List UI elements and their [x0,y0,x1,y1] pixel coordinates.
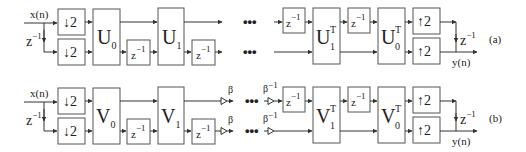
panel-a: x(n) z−1 ↓2 ↓2 U0 z−1 [24,8,502,69]
analysis-block-u0: U0 [93,9,120,65]
delay-block: z−1 [348,87,370,112]
panel-label-b: (b) [489,112,502,125]
svg-text:1: 1 [330,120,335,131]
output-label: y(n) [452,56,471,69]
delay-block: z−1 [127,40,150,65]
delay-label: z−1 [460,109,476,127]
svg-text:0: 0 [395,41,400,52]
svg-text:β: β [228,84,233,95]
synthesis-block-u0t: U T 0 [378,8,405,64]
svg-text:1: 1 [330,41,335,52]
upsampler-block: ↑2 [413,117,440,143]
delay-block: z−1 [192,40,215,65]
svg-text:↑2: ↑2 [417,44,431,59]
delay-block: z−1 [283,87,305,112]
svg-text:T: T [395,103,401,114]
synthesis-block-v1t: V T 1 [313,87,340,143]
svg-text:V: V [316,105,331,127]
output-label: y(n) [452,135,471,148]
svg-text:T: T [330,24,336,35]
delay-block: z−1 [348,8,370,33]
ellipsis: ••• [245,123,259,138]
svg-text:↑2: ↑2 [417,123,431,138]
downsampler-block: ↓2 [58,88,85,114]
analysis-block-v1: V1 [158,87,184,144]
svg-text:↓2: ↓2 [63,94,77,109]
svg-text:0: 0 [395,120,400,131]
delay-label: z−1 [460,30,476,48]
delay-label: z−1 [26,31,42,49]
delay-label: z−1 [26,110,42,128]
svg-text:T: T [395,24,401,35]
upsampler-block: ↑2 [413,87,440,113]
ellipsis: ••• [243,44,257,59]
input-label: x(n) [30,8,49,21]
svg-text:β: β [228,114,233,125]
synthesis-block-v0t: V T 0 [378,87,405,143]
panel-label-a: (a) [489,33,502,46]
input-label: x(n) [30,87,49,100]
gain-beta: β [221,84,233,105]
analysis-block-u1: U1 [158,8,184,65]
gain-beta-inverse: β−1 [263,80,282,105]
svg-text:β−1: β−1 [263,110,278,124]
delay-block: z−1 [283,8,305,33]
delay-block: z−1 [192,119,215,144]
svg-text:β−1: β−1 [263,80,278,94]
upsampler-block: ↑2 [413,38,440,64]
ellipsis: ••• [245,93,259,108]
upsampler-block: ↑2 [413,8,440,34]
svg-text:V: V [381,105,396,127]
svg-text:↑2: ↑2 [417,14,431,29]
svg-text:↓2: ↓2 [63,15,77,30]
ellipsis: ••• [243,14,257,29]
downsampler-block: ↓2 [58,9,85,35]
gain-beta: β [221,114,233,135]
svg-text:↑2: ↑2 [417,93,431,108]
downsampler-block: ↓2 [58,39,85,65]
svg-text:U: U [381,26,396,48]
analysis-block-v0: V0 [93,88,120,144]
delay-block: z−1 [127,119,150,144]
synthesis-block-u1t: U T 1 [313,8,340,64]
downsampler-block: ↓2 [58,118,85,144]
svg-text:U: U [316,26,331,48]
filter-bank-diagram: x(n) z−1 ↓2 ↓2 U0 z−1 [0,0,526,152]
svg-text:T: T [330,103,336,114]
panel-b: x(n) z−1 ↓2 ↓2 V0 z−1 V1 [24,80,502,148]
svg-text:↓2: ↓2 [63,124,77,139]
svg-text:↓2: ↓2 [63,45,77,60]
